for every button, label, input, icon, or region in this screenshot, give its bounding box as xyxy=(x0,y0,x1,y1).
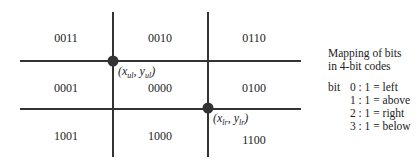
bit-mapping-legend: Mapping of bits in 4-bit codes bit 0 : 1… xyxy=(328,47,411,133)
upper-left-corner-point xyxy=(108,56,119,67)
legend-title-line-1: Mapping of bits xyxy=(328,47,411,60)
region-code-top-left: 0011 xyxy=(54,31,78,46)
region-code-middle-right: 0100 xyxy=(242,81,266,96)
legend-row-text: 3 : 1 = below xyxy=(350,120,411,132)
legend-row-bit-2: 2 : 1 = right xyxy=(328,107,411,120)
lower-right-corner-point xyxy=(203,103,214,114)
right-boundary-line xyxy=(207,12,209,157)
region-code-middle-left: 0001 xyxy=(54,81,78,96)
legend-bit-rows: bit 0 : 1 = left 1 : 1 = above 2 : 1 = r… xyxy=(328,81,411,133)
legend-title: Mapping of bits in 4-bit codes xyxy=(328,47,411,73)
upper-left-point-label: (xul, yul) xyxy=(118,64,155,80)
legend-row-text: 1 : 1 = above xyxy=(350,94,410,106)
legend-title-line-2: in 4-bit codes xyxy=(328,60,411,73)
bottom-boundary-line xyxy=(20,108,301,110)
legend-row-text: 0 : 1 = left xyxy=(350,81,398,93)
region-code-center: 0000 xyxy=(148,81,172,96)
legend-row-bit-1: 1 : 1 = above xyxy=(328,94,411,107)
region-code-bottom-center: 1000 xyxy=(148,129,172,144)
region-code-bottom-right: 1100 xyxy=(242,133,266,148)
legend-row-bit-3: 3 : 1 = below xyxy=(328,120,411,133)
legend-row-text: 2 : 1 = right xyxy=(350,107,404,119)
left-boundary-line xyxy=(112,12,114,157)
region-code-top-center: 0010 xyxy=(148,31,172,46)
lower-right-point-label: (xlr, ylr) xyxy=(213,111,248,127)
region-code-bottom-left: 1001 xyxy=(54,129,78,144)
region-code-top-right: 0110 xyxy=(242,31,266,46)
legend-row-bit-0: bit 0 : 1 = left xyxy=(328,81,411,94)
bit-prefix: bit xyxy=(328,81,347,94)
top-boundary-line xyxy=(20,60,301,62)
